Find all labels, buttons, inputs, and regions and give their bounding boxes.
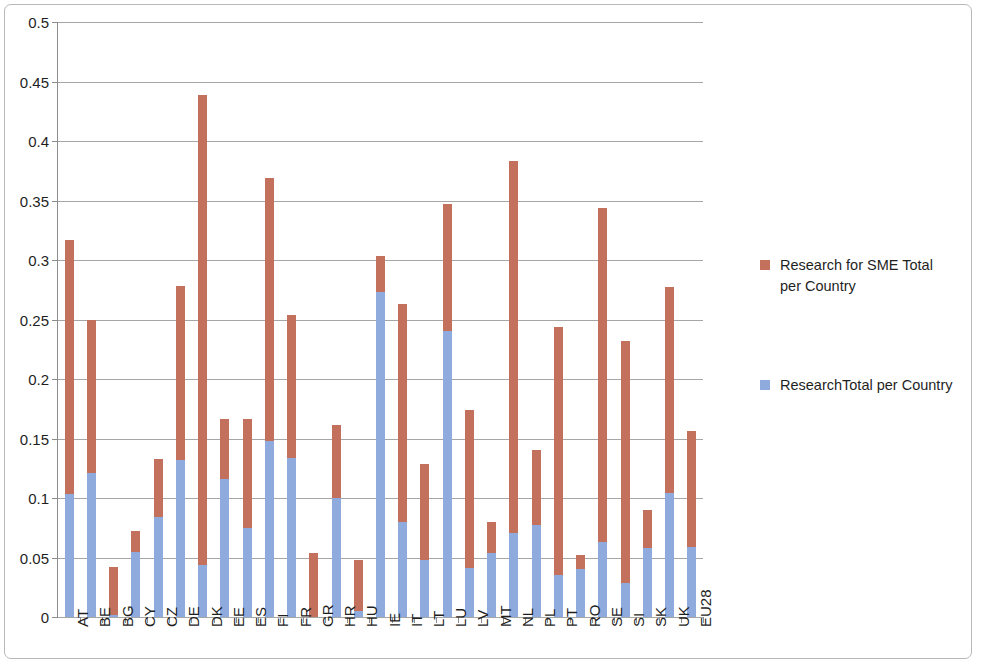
x-axis-label-ee: EE (231, 607, 246, 627)
bar-column[interactable] (643, 510, 652, 617)
bar-segment-research-sme-total[interactable] (176, 286, 185, 460)
y-axis-label: 0.15 (20, 431, 49, 446)
bar-column[interactable] (287, 315, 296, 617)
x-axis-label-it: IT (409, 614, 424, 627)
bar-segment-research-sme-total[interactable] (220, 419, 229, 479)
bar-segment-research-total[interactable] (65, 494, 74, 617)
bar-column[interactable] (509, 161, 518, 617)
bar-column[interactable] (665, 287, 674, 617)
y-axis-label: 0.5 (28, 15, 49, 30)
bar-column[interactable] (621, 341, 630, 617)
bar-segment-research-sme-total[interactable] (198, 95, 207, 565)
bar-column[interactable] (376, 256, 385, 617)
bar-segment-research-total[interactable] (287, 458, 296, 617)
bar-segment-research-total[interactable] (332, 498, 341, 617)
y-axis-label: 0.3 (28, 253, 49, 268)
bar-segment-research-sme-total[interactable] (532, 450, 541, 525)
y-axis-label: 0 (41, 610, 49, 625)
bar-segment-research-sme-total[interactable] (65, 240, 74, 495)
bar-segment-research-sme-total[interactable] (665, 287, 674, 493)
bar-segment-research-sme-total[interactable] (376, 256, 385, 292)
bar-segment-research-sme-total[interactable] (509, 161, 518, 532)
bar-segment-research-total[interactable] (509, 533, 518, 617)
y-axis-label: 0.45 (20, 74, 49, 89)
bar-segment-research-sme-total[interactable] (643, 510, 652, 548)
bar-column[interactable] (220, 419, 229, 617)
x-axis-label-bg: BG (120, 605, 135, 627)
bar-segment-research-sme-total[interactable] (398, 304, 407, 522)
bar-segment-research-sme-total[interactable] (87, 320, 96, 474)
x-axis-label-se: SE (609, 607, 624, 627)
x-axis-label-lt: LT (431, 611, 446, 627)
bar-column[interactable] (420, 464, 429, 618)
bar-segment-research-sme-total[interactable] (420, 464, 429, 560)
y-axis-label: 0.25 (20, 312, 49, 327)
bar-segment-research-total[interactable] (443, 331, 452, 617)
y-axis-label: 0.2 (28, 372, 49, 387)
x-axis-label-nl: NL (520, 608, 535, 627)
bar-segment-research-sme-total[interactable] (465, 410, 474, 568)
legend-swatch-red (760, 260, 770, 270)
bar-segment-research-sme-total[interactable] (576, 555, 585, 569)
bar-segment-research-sme-total[interactable] (131, 531, 140, 551)
bar-segment-research-total[interactable] (532, 525, 541, 617)
legend-entry[interactable]: ResearchTotal per Country (760, 375, 955, 396)
y-axis-tick (52, 617, 58, 618)
bar-segment-research-sme-total[interactable] (154, 459, 163, 517)
bar-segment-research-total[interactable] (643, 548, 652, 617)
bar-segment-research-sme-total[interactable] (265, 178, 274, 441)
bar-segment-research-sme-total[interactable] (554, 327, 563, 576)
x-axis-label-hu: HU (364, 605, 379, 627)
bar-column[interactable] (443, 204, 452, 617)
bar-column[interactable] (154, 459, 163, 617)
bar-segment-research-total[interactable] (87, 473, 96, 617)
bar-column[interactable] (65, 240, 74, 617)
bar-segment-research-sme-total[interactable] (243, 419, 252, 527)
legend-entry[interactable]: Research for SME Total per Country (760, 255, 955, 297)
bar-segment-research-total[interactable] (265, 441, 274, 617)
bar-column[interactable] (198, 95, 207, 617)
bar-segment-research-sme-total[interactable] (287, 315, 296, 458)
bar-column[interactable] (243, 419, 252, 617)
bar-segment-research-sme-total[interactable] (487, 522, 496, 553)
bar-column[interactable] (532, 450, 541, 617)
bar-segment-research-sme-total[interactable] (354, 560, 363, 611)
bar-column[interactable] (265, 178, 274, 617)
bar-segment-research-total[interactable] (487, 553, 496, 617)
bar-segment-research-total[interactable] (376, 292, 385, 617)
bar-column[interactable] (332, 425, 341, 617)
bar-segment-research-total[interactable] (220, 479, 229, 617)
bar-segment-research-total[interactable] (176, 460, 185, 617)
x-axis-label-mt: MT (498, 605, 513, 627)
bar-segment-research-sme-total[interactable] (621, 341, 630, 583)
bar-segment-research-sme-total[interactable] (687, 431, 696, 546)
bar-column[interactable] (87, 320, 96, 618)
bar-column[interactable] (398, 304, 407, 617)
bar-segment-research-total[interactable] (243, 528, 252, 617)
y-axis-label: 0.35 (20, 193, 49, 208)
x-axis-label-lv: LV (475, 610, 490, 627)
x-axis-label-de: DE (186, 606, 201, 627)
x-axis-label-ro: RO (587, 605, 602, 628)
bar-segment-research-total[interactable] (398, 522, 407, 617)
x-axis-label-es: ES (253, 607, 268, 627)
x-axis-label-pt: PT (564, 608, 579, 627)
bar-column[interactable] (176, 286, 185, 617)
bar-segment-research-total[interactable] (665, 493, 674, 617)
bar-segment-research-sme-total[interactable] (332, 425, 341, 498)
bar-column[interactable] (465, 410, 474, 617)
bar-column[interactable] (487, 522, 496, 617)
y-axis-label: 0.1 (28, 491, 49, 506)
y-axis-label: 0.4 (28, 134, 49, 149)
bar-column[interactable] (598, 208, 607, 617)
bar-column[interactable] (687, 431, 696, 617)
bar-column[interactable] (131, 531, 140, 617)
bar-segment-research-total[interactable] (154, 517, 163, 617)
chart-frame: 00.050.10.150.20.250.30.350.40.450.5 ATB… (4, 4, 972, 659)
bar-column[interactable] (554, 327, 563, 617)
bar-segment-research-total[interactable] (420, 560, 429, 617)
bar-segment-research-sme-total[interactable] (443, 204, 452, 331)
x-axis-label-si: SI (631, 613, 646, 627)
bar-segment-research-sme-total[interactable] (598, 208, 607, 542)
legend-spacer (760, 297, 955, 375)
